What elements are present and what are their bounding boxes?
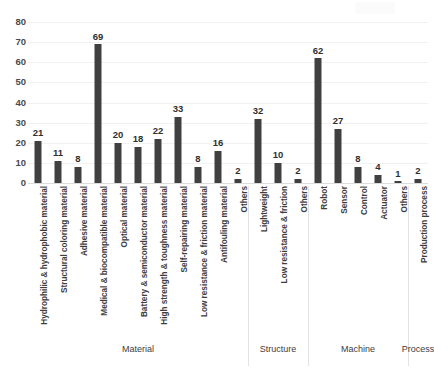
group-axis: MaterialStructureMachineProcess (28, 186, 428, 366)
y-axis-tick-label: 30 (2, 118, 26, 128)
bar-slot: 16 (208, 22, 228, 183)
y-axis: 01020304050607080 (0, 22, 26, 183)
bar (195, 167, 202, 183)
bar-value-label: 11 (53, 148, 63, 158)
bar-value-label: 69 (93, 32, 104, 42)
bar-value-label: 8 (195, 154, 200, 164)
bar-slot: 62 (308, 22, 328, 183)
y-axis-tick-label: 60 (2, 58, 26, 68)
bar (215, 151, 222, 183)
y-axis-tick-label: 80 (2, 17, 26, 27)
bar-value-label: 62 (313, 46, 324, 56)
group-label: Machine (341, 344, 375, 354)
bar-value-label: 8 (75, 154, 80, 164)
bar (175, 117, 182, 183)
y-axis-tick-label: 40 (2, 98, 26, 108)
bar-slot: 33 (168, 22, 188, 183)
group-label: Structure (260, 344, 297, 354)
y-axis-tick-label: 20 (2, 138, 26, 148)
bar (55, 161, 62, 183)
bar-slot: 4 (368, 22, 388, 183)
bar-slot: 22 (148, 22, 168, 183)
bar (315, 58, 322, 183)
bar-value-label: 4 (375, 162, 380, 172)
y-axis-tick-label: 70 (2, 37, 26, 47)
group-separator (408, 186, 409, 366)
group-label: Process (402, 344, 434, 354)
bar (135, 147, 142, 183)
axis-baseline (28, 183, 428, 184)
bar (115, 143, 122, 183)
bar-slot: 69 (88, 22, 108, 183)
bar-chart: 01020304050607080 2111869201822338162321… (0, 0, 434, 390)
bar (335, 129, 342, 183)
bar-slot: 20 (108, 22, 128, 183)
bar (235, 179, 242, 183)
bar-slot: 2 (408, 22, 428, 183)
bar (95, 44, 102, 183)
y-axis-tick-label: 10 (2, 158, 26, 168)
bar-value-label: 1 (395, 169, 400, 179)
bar-slot: 21 (28, 22, 48, 183)
bar-slot: 1 (388, 22, 408, 183)
bar-value-label: 20 (113, 130, 124, 140)
bar (415, 179, 422, 183)
scan-artifact (355, 2, 395, 14)
bar-value-label: 2 (235, 166, 240, 176)
bar-slot: 32 (248, 22, 268, 183)
bar-value-label: 32 (253, 106, 264, 116)
bar (355, 167, 362, 183)
y-axis-tick-label: 50 (2, 78, 26, 88)
bar-value-label: 2 (295, 166, 300, 176)
bar-value-label: 10 (273, 150, 284, 160)
group-label: Material (122, 344, 154, 354)
bar-slot: 18 (128, 22, 148, 183)
bar-slot: 8 (68, 22, 88, 183)
bar (255, 119, 262, 183)
bar (395, 181, 402, 183)
bar-slot: 27 (328, 22, 348, 183)
bar-value-label: 27 (333, 116, 344, 126)
y-axis-tick-label: 0 (2, 178, 26, 188)
bar (75, 167, 82, 183)
bar (275, 163, 282, 183)
bar (155, 139, 162, 183)
bar-slot: 10 (268, 22, 288, 183)
bar-slot: 2 (228, 22, 248, 183)
bar-value-label: 21 (33, 128, 44, 138)
bar-value-label: 22 (153, 126, 164, 136)
bar-value-label: 2 (415, 166, 420, 176)
bar (35, 141, 42, 183)
bar-value-label: 8 (355, 154, 360, 164)
group-separator (248, 186, 249, 366)
bar-slot: 11 (48, 22, 68, 183)
bar (295, 179, 302, 183)
bar-slot: 8 (188, 22, 208, 183)
bar-slot: 2 (288, 22, 308, 183)
bar-value-label: 16 (213, 138, 224, 148)
bar-slot: 8 (348, 22, 368, 183)
bar-value-label: 33 (173, 104, 184, 114)
bar (375, 175, 382, 183)
bars-layer: 21118692018223381623210262278412 (28, 22, 428, 183)
group-separator (308, 186, 309, 366)
bar-value-label: 18 (133, 134, 144, 144)
